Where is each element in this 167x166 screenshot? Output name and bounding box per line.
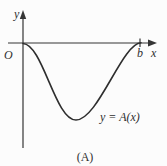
y-axis-label: y: [13, 7, 20, 21]
figure-canvas: y x O b y = A(x) (A): [0, 0, 167, 166]
figure-caption: (A): [77, 150, 94, 164]
y-axis-arrow-icon: [20, 10, 26, 19]
curve: [23, 43, 141, 120]
origin-label: O: [4, 48, 13, 62]
x-axis-label: x: [150, 46, 157, 60]
function-graph-figure: y x O b y = A(x) (A): [0, 0, 167, 166]
b-tick-label: b: [137, 46, 143, 60]
curve-label: y = A(x): [99, 110, 140, 124]
